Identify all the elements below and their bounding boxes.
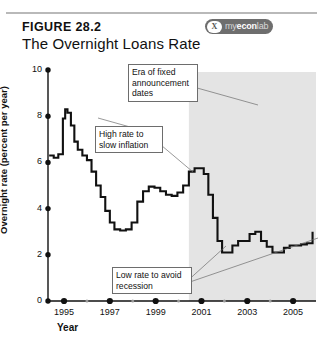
y-tick-label: 10 bbox=[24, 64, 42, 74]
y-tick-dot bbox=[45, 252, 50, 257]
chart-svg bbox=[0, 0, 323, 352]
x-tick-dot bbox=[244, 298, 250, 304]
y-axis-label: Overnight rate (percent per year) bbox=[0, 86, 9, 234]
annotation-era-note: Era of fixed announcement dates bbox=[128, 64, 198, 102]
x-tick-label: 2003 bbox=[230, 307, 264, 317]
y-tick-dot bbox=[45, 206, 50, 211]
x-tick-dot bbox=[107, 298, 113, 304]
x-axis-label: Year bbox=[57, 322, 78, 333]
x-minor-tick-dot bbox=[223, 300, 226, 303]
chart-plot-area: Overnight rate (percent per year) Year 0… bbox=[0, 0, 323, 352]
x-tick-label: 2005 bbox=[276, 307, 310, 317]
y-tick-label: 4 bbox=[24, 203, 42, 213]
figure-container: FIGURE 28.2 The Overnight Loans Rate X m… bbox=[0, 0, 323, 352]
y-tick-label: 0 bbox=[24, 295, 42, 305]
annotation-high-rate-note: High rate to slow inflation bbox=[95, 126, 163, 153]
annotation-low-rate-note: Low rate to avoid recession bbox=[112, 267, 192, 294]
x-tick-label: 1999 bbox=[139, 307, 173, 317]
x-minor-tick-dot bbox=[177, 300, 180, 303]
x-tick-label: 1995 bbox=[47, 307, 81, 317]
x-tick-label: 2001 bbox=[184, 307, 218, 317]
x-minor-tick-dot bbox=[85, 300, 88, 303]
y-tick-label: 8 bbox=[24, 110, 42, 120]
y-tick-label: 6 bbox=[24, 156, 42, 166]
x-tick-dot bbox=[61, 298, 67, 304]
x-minor-tick-dot bbox=[269, 300, 272, 303]
y-tick-label: 2 bbox=[24, 249, 42, 259]
x-tick-dot bbox=[290, 298, 296, 304]
y-tick-dot bbox=[45, 298, 50, 303]
x-tick-dot bbox=[153, 298, 159, 304]
x-tick-dot bbox=[198, 298, 204, 304]
y-tick-dot bbox=[45, 160, 50, 165]
y-tick-dot bbox=[45, 67, 50, 72]
x-minor-tick-dot bbox=[131, 300, 134, 303]
x-tick-label: 1997 bbox=[93, 307, 127, 317]
y-tick-dot bbox=[45, 114, 50, 119]
